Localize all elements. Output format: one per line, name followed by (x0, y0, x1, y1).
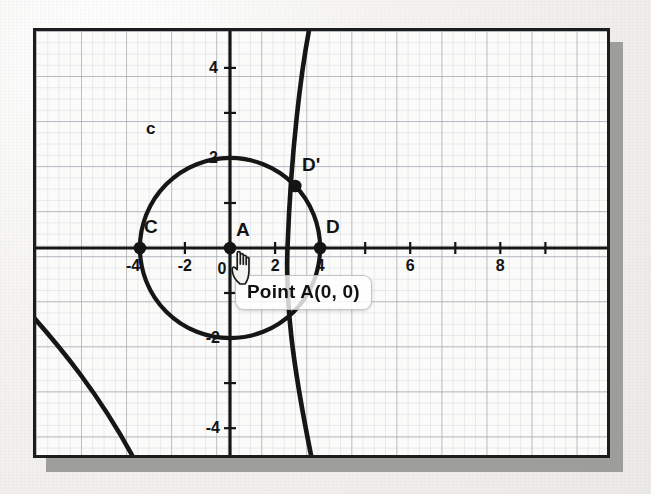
y-tick-label-4: 4 (209, 59, 218, 76)
x-tick-label-2: 2 (271, 257, 280, 274)
x-tick-label--2: -2 (178, 257, 192, 274)
x-tick-label-6: 6 (406, 257, 415, 274)
x-tick-label--4: -4 (126, 257, 140, 274)
x-tick-label-4: 4 (316, 257, 325, 274)
point-label-A: A (236, 219, 250, 240)
pointing-hand-cursor (229, 247, 259, 287)
curve-label-c: c (146, 119, 155, 138)
y-tick-label-2: 2 (209, 149, 218, 166)
point-D-prime[interactable] (289, 180, 302, 193)
applet-window: -4 -2 0 2 4 6 8 4 2 -2 -4 A C D D' c Poi… (33, 28, 610, 458)
x-tick-label-0: 0 (218, 260, 227, 277)
point-label-D: D (326, 216, 340, 237)
x-tick-label-8: 8 (496, 257, 505, 274)
y-tick-label--2: -2 (206, 329, 220, 346)
graphics-view[interactable]: -4 -2 0 2 4 6 8 4 2 -2 -4 A C D D' c Poi… (36, 31, 607, 455)
point-D[interactable] (314, 242, 327, 255)
point-label-C: C (144, 216, 158, 237)
y-tick-label--4: -4 (206, 419, 220, 436)
point-label-D-prime: D' (302, 154, 320, 175)
coordinate-board: -4 -2 0 2 4 6 8 4 2 -2 -4 A C D D' c (36, 31, 607, 455)
point-C[interactable] (134, 242, 147, 255)
